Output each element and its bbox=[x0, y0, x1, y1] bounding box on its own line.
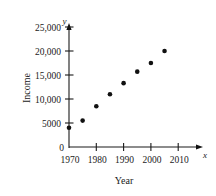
chart-canvas: y x 25,000 20,000 15,000 10,000 5000 0 1… bbox=[0, 0, 216, 196]
x-tick-label-1980: 1980 bbox=[88, 155, 107, 165]
y-tick-label-10000: 10,000 bbox=[35, 95, 61, 105]
y-axis-variable-symbol: y bbox=[62, 16, 67, 26]
data-point bbox=[121, 81, 126, 86]
data-point bbox=[135, 69, 140, 74]
x-axis-arrow-icon bbox=[196, 144, 203, 149]
x-tick-label-1990: 1990 bbox=[115, 155, 134, 165]
x-axis-variable-symbol: x bbox=[202, 150, 207, 160]
y-tick-label-25000: 25,000 bbox=[35, 23, 61, 33]
y-tick-label-20000: 20,000 bbox=[35, 47, 61, 57]
data-point bbox=[94, 104, 99, 109]
scatter-plot-figure: y x 25,000 20,000 15,000 10,000 5000 0 1… bbox=[0, 0, 216, 196]
y-tick-label-5000: 5000 bbox=[42, 119, 61, 129]
data-point bbox=[108, 92, 113, 97]
x-tick-label-2010: 2010 bbox=[170, 155, 189, 165]
x-axis-title: Year bbox=[115, 175, 134, 186]
data-points-layer bbox=[67, 49, 167, 130]
data-point bbox=[80, 118, 85, 123]
y-tick-label-0: 0 bbox=[59, 143, 64, 153]
y-tick-label-15000: 15,000 bbox=[35, 71, 61, 81]
x-tick-label-1970: 1970 bbox=[61, 155, 80, 165]
x-tick-label-2000: 2000 bbox=[142, 155, 161, 165]
y-axis-title: Income bbox=[21, 72, 32, 103]
data-point bbox=[149, 61, 154, 66]
data-point bbox=[162, 49, 167, 54]
data-point bbox=[67, 126, 72, 131]
